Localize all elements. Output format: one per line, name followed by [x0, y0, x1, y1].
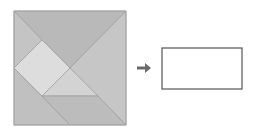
tangram-diagram [0, 0, 257, 131]
tangram-square [14, 11, 126, 125]
right-arrow-icon [137, 63, 151, 73]
target-rectangle [162, 48, 242, 89]
